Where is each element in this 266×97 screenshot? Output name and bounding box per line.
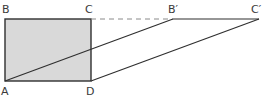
rectangle-abcd bbox=[5, 19, 91, 81]
label-d: D bbox=[86, 85, 94, 97]
edge-d-c-prime bbox=[91, 19, 259, 81]
shear-diagram: B C A D B′ C′ bbox=[0, 0, 266, 97]
label-a: A bbox=[1, 85, 9, 97]
label-b-prime: B′ bbox=[168, 3, 179, 16]
label-c-prime: C′ bbox=[251, 3, 262, 16]
label-c: C bbox=[85, 3, 93, 16]
label-b: B bbox=[2, 3, 10, 16]
